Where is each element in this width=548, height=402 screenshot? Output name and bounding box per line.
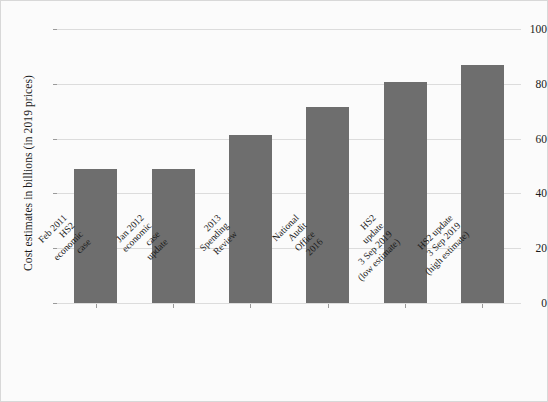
y-tick-mark	[53, 29, 57, 30]
y-tick-label: 100	[503, 23, 547, 35]
bar	[461, 65, 504, 303]
y-tick-label: 80	[503, 78, 547, 90]
y-tick-label: 0	[503, 297, 547, 309]
y-tick-label: 60	[503, 133, 547, 145]
y-tick-mark	[53, 84, 57, 85]
y-tick-mark	[53, 193, 57, 194]
y-tick-label: 40	[503, 187, 547, 199]
x-tick-mark	[482, 304, 483, 308]
chart-figure: Cost estimates in billions (in 2019 pric…	[0, 0, 548, 402]
x-tick-mark	[173, 304, 174, 308]
y-tick-label: 20	[503, 242, 547, 254]
gridline	[57, 139, 521, 140]
x-tick-mark	[405, 304, 406, 308]
gridline	[57, 29, 521, 30]
gridline	[57, 193, 521, 194]
gridline	[57, 84, 521, 85]
y-tick-mark	[53, 139, 57, 140]
